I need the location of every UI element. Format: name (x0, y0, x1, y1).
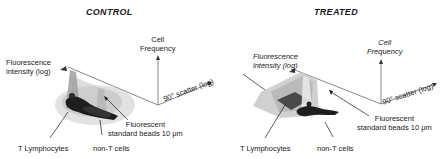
non-t-cells-label: non-T cells (93, 144, 130, 153)
t-lymphocytes-label: T Lymphocytes (18, 144, 68, 153)
treated-panel: TREATED Cell (221, 0, 442, 159)
non-t-cells-pointer (325, 122, 333, 137)
t-lymphocytes-pointer (50, 112, 68, 138)
treated-3d-histogram (221, 0, 442, 159)
cell-frequency-label: Cell Frequency (367, 38, 402, 56)
fluorescent-beads-label: Fluorescent standard beads 10 μm (357, 114, 432, 132)
fluorescence-intensity-label: Fluorescence intensity (log) (6, 58, 51, 76)
t-lymphocytes-scatter-pointer (243, 74, 265, 90)
fluorescent-beads-label: Fluorescent standard beads 10 μm (108, 120, 183, 138)
t-lymphocytes-label: T Lymphocytes (240, 144, 290, 153)
non-t-cells-label: non-T cells (317, 144, 354, 153)
histogram-surface (253, 72, 339, 118)
control-panel: CONTROL (0, 0, 221, 159)
cell-frequency-label: Cell Frequency (140, 35, 175, 53)
fluorescence-intensity-label: Fluorescence intensity (log) (253, 52, 298, 70)
